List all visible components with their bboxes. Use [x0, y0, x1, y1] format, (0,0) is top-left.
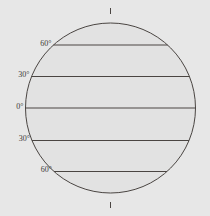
globe-figure: 60°30°0°30°60°	[0, 0, 210, 216]
latitude-label: 0°	[16, 102, 23, 111]
latitude-label: 30°	[18, 70, 29, 79]
globe-diagram: 60°30°0°30°60°	[0, 0, 210, 216]
latitude-label: 60°	[41, 165, 52, 174]
latitude-label: 60°	[40, 39, 51, 48]
latitude-label: 30°	[19, 134, 30, 143]
